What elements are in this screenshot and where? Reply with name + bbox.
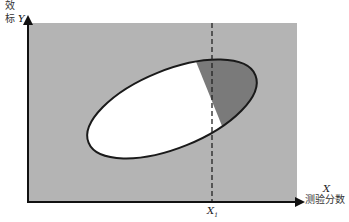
diagram-canvas	[0, 0, 349, 222]
y-axis-label-cn-2: 标	[5, 14, 15, 24]
y-axis-symbol: Y	[18, 14, 25, 24]
y-axis-label-cn-1: 效	[5, 1, 15, 11]
x-axis-symbol: X	[323, 184, 330, 194]
cutoff-label-subscript: 1	[214, 211, 218, 218]
cutoff-label: X1	[207, 206, 218, 218]
x-axis-label-cn: 测验分数	[305, 195, 345, 205]
